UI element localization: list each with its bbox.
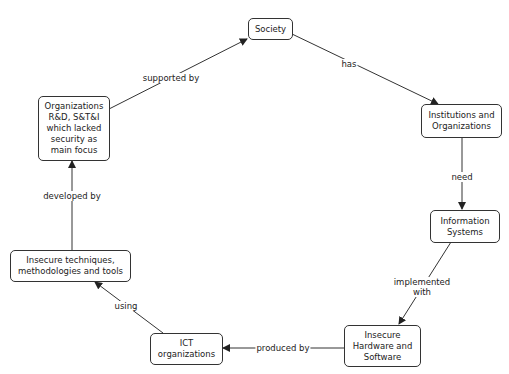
edge-label-need: need: [450, 172, 473, 182]
node-society: Society: [248, 18, 293, 40]
node-information-systems: Information Systems: [430, 210, 500, 243]
node-ict-organizations: ICT organizations: [150, 333, 223, 365]
edge-label-has: has: [340, 59, 357, 69]
connector-lines: [0, 0, 509, 374]
edge-label-implemented-with: implemented with: [393, 277, 451, 297]
node-insecure-hardware-and-software: Insecure Hardware and Software: [344, 325, 421, 367]
edge-label-using: using: [114, 301, 139, 311]
edge-label-supported-by: supported by: [142, 73, 200, 83]
edge-label-developed-by: developed by: [42, 191, 102, 201]
edge-label-produced-by: produced by: [255, 343, 310, 353]
node-institutions-and-organizations: Institutions and Organizations: [421, 104, 502, 138]
node-insecure-techniques: Insecure techniques, methodologies and t…: [10, 250, 131, 282]
node-organizations-rd: Organizations R&D, S&T&I which lacked se…: [38, 96, 110, 161]
